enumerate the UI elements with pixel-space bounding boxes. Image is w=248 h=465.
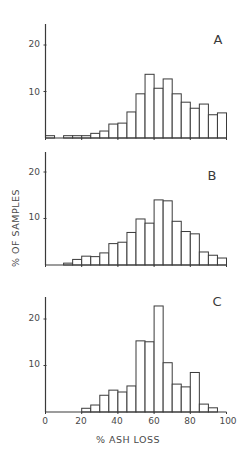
xtick-label-60: 60: [148, 416, 160, 426]
histogram-bar: [217, 258, 226, 265]
histogram-bar: [172, 221, 181, 265]
panel-label-c: C: [212, 294, 221, 309]
histogram-bar: [199, 104, 208, 138]
ytick-label-20-c: 20: [29, 313, 41, 323]
histogram-bar: [73, 259, 82, 265]
xtick-label-20: 20: [75, 416, 87, 426]
histogram-bar: [172, 94, 181, 138]
histogram-bar: [199, 404, 208, 412]
histogram-bar: [136, 94, 145, 138]
histogram-bar: [163, 79, 172, 138]
ytick-label-10-b: 10: [29, 212, 41, 222]
histogram-bar: [163, 363, 172, 412]
histogram-bar: [91, 133, 100, 138]
histogram-bar: [136, 219, 145, 265]
histogram-bar: [154, 306, 163, 412]
histogram-bar: [163, 201, 172, 265]
xtick-label-0: 0: [42, 416, 48, 426]
histogram-bar: [190, 372, 199, 412]
xtick-label-40: 40: [111, 416, 123, 426]
histogram-bar: [190, 234, 199, 265]
bars-panel-c: [82, 306, 218, 412]
histogram-bar: [199, 252, 208, 265]
histogram-bar: [181, 387, 190, 412]
histogram-panel-b: 20 10 B: [29, 152, 227, 267]
histogram-bar: [217, 113, 226, 138]
histogram-bar: [181, 232, 190, 265]
histogram-bar: [190, 108, 199, 138]
x-axis-title: % ASH LOSS: [96, 434, 160, 445]
histogram-bar: [127, 232, 136, 265]
ytick-label-10-a: 10: [29, 87, 41, 97]
panel-label-b: B: [208, 168, 217, 183]
histogram-bar: [109, 244, 118, 265]
xtick-label-100: 100: [219, 416, 236, 426]
histogram-bar: [109, 124, 118, 138]
panel-label-a: A: [214, 32, 223, 47]
histogram-figure: 20 10 A 20 10 B 20 10 C 0 20 40 60 80 10…: [0, 0, 248, 465]
ytick-label-10-c: 10: [29, 359, 41, 369]
y-axis-title: % OF SAMPLES: [10, 189, 21, 267]
histogram-bar: [82, 256, 91, 265]
histogram-panel-c: 20 10 C 0 20 40 60 80 100: [29, 294, 237, 426]
histogram-bar: [181, 102, 190, 138]
histogram-bar: [118, 242, 127, 265]
histogram-bar: [208, 115, 217, 138]
histogram-bar: [91, 257, 100, 265]
histogram-bar: [145, 223, 154, 265]
bars-panel-a: [46, 74, 227, 138]
histogram-bar: [127, 112, 136, 138]
histogram-bar: [208, 408, 217, 412]
x-tick-labels: 0 20 40 60 80 100: [42, 416, 237, 426]
ytick-label-20-b: 20: [29, 167, 41, 177]
histogram-bar: [154, 200, 163, 265]
histogram-bar: [91, 405, 100, 412]
histogram-bar: [100, 131, 109, 138]
histogram-bar: [145, 74, 154, 138]
histogram-bar: [208, 255, 217, 265]
histogram-panel-a: 20 10 A: [29, 24, 227, 140]
histogram-bar: [172, 384, 181, 412]
histogram-bar: [145, 342, 154, 412]
histogram-bar: [100, 253, 109, 265]
xtick-label-80: 80: [184, 416, 196, 426]
histogram-bar: [154, 88, 163, 138]
histogram-bar: [118, 392, 127, 412]
histogram-bar: [109, 390, 118, 412]
bars-panel-b: [64, 200, 227, 265]
histogram-bar: [118, 123, 127, 138]
ytick-label-20-a: 20: [29, 39, 41, 49]
histogram-bar: [136, 341, 145, 412]
histogram-bar: [127, 386, 136, 412]
histogram-bar: [100, 395, 109, 412]
